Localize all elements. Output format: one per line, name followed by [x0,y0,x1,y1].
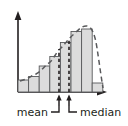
bar-8 [92,83,103,92]
bar-1 [18,80,29,92]
mean-label: mean [17,106,48,119]
histogram-figure: mean median [0,0,128,126]
median-pointer-arrow [66,95,71,107]
bar-2 [29,77,40,93]
mean-pointer-arrow [56,95,61,107]
median-label: median [80,106,121,119]
mean-leader-line [51,106,59,112]
median-leader-line [69,106,77,112]
bar-7 [82,29,93,92]
bar-3 [39,66,50,92]
histogram-svg: mean median [0,0,128,126]
histogram-bars [18,29,103,92]
bar-6 [71,32,82,93]
